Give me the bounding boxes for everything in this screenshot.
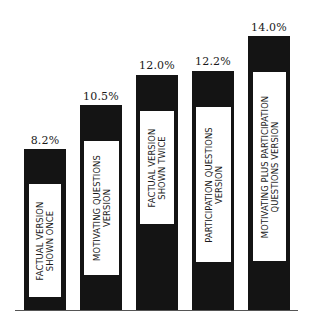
category-label: FACTUAL VERSION SHOWN ONCE [35, 201, 55, 280]
category-label-line: MOTIVATING QUESTIONS [92, 155, 102, 261]
category-label: FACTUAL VERSION SHOWN TWICE [147, 128, 167, 207]
category-label-line: VERSION [102, 155, 112, 261]
category-label: MOTIVATING PLUS PARTICIPATION QUESTIONS … [260, 95, 280, 237]
value-label: 8.2% [15, 134, 75, 147]
category-label: PARTICIPATION QUESTIONS VERSION [204, 127, 224, 242]
value-label: 10.5% [71, 90, 131, 103]
value-label: 12.0% [127, 59, 187, 72]
category-label: MOTIVATING QUESTIONS VERSION [92, 155, 112, 261]
category-label-line: FACTUAL VERSION [147, 128, 157, 207]
category-label-line: VERSION [214, 127, 224, 242]
category-label-line: SHOWN TWICE [157, 128, 167, 207]
bar-motivating-questions: MOTIVATING QUESTIONS VERSION [80, 105, 122, 310]
category-label-line: MOTIVATING PLUS PARTICIPATION [260, 95, 270, 237]
bar-participation-questions: PARTICIPATION QUESTIONS VERSION [192, 71, 234, 310]
bar-factual-twice: FACTUAL VERSION SHOWN TWICE [136, 75, 178, 310]
category-label-box: PARTICIPATION QUESTIONS VERSION [196, 107, 231, 262]
category-label-box: FACTUAL VERSION SHOWN ONCE [29, 184, 61, 297]
value-label: 14.0% [239, 21, 299, 34]
bar-factual-once: FACTUAL VERSION SHOWN ONCE [24, 149, 66, 310]
category-label-box: FACTUAL VERSION SHOWN TWICE [140, 111, 174, 224]
x-axis-baseline [15, 310, 298, 311]
bar-chart: 8.2% FACTUAL VERSION SHOWN ONCE 10.5% MO… [0, 0, 310, 327]
bar-motivating-plus-participation: MOTIVATING PLUS PARTICIPATION QUESTIONS … [248, 36, 290, 310]
category-label-box: MOTIVATING PLUS PARTICIPATION QUESTIONS … [253, 72, 286, 261]
category-label-line: SHOWN ONCE [45, 201, 55, 280]
category-label-box: MOTIVATING QUESTIONS VERSION [84, 141, 119, 275]
category-label-line: FACTUAL VERSION [35, 201, 45, 280]
value-label: 12.2% [183, 55, 243, 68]
category-label-line: QUESTIONS VERSION [270, 95, 280, 237]
category-label-line: PARTICIPATION QUESTIONS [204, 127, 214, 242]
